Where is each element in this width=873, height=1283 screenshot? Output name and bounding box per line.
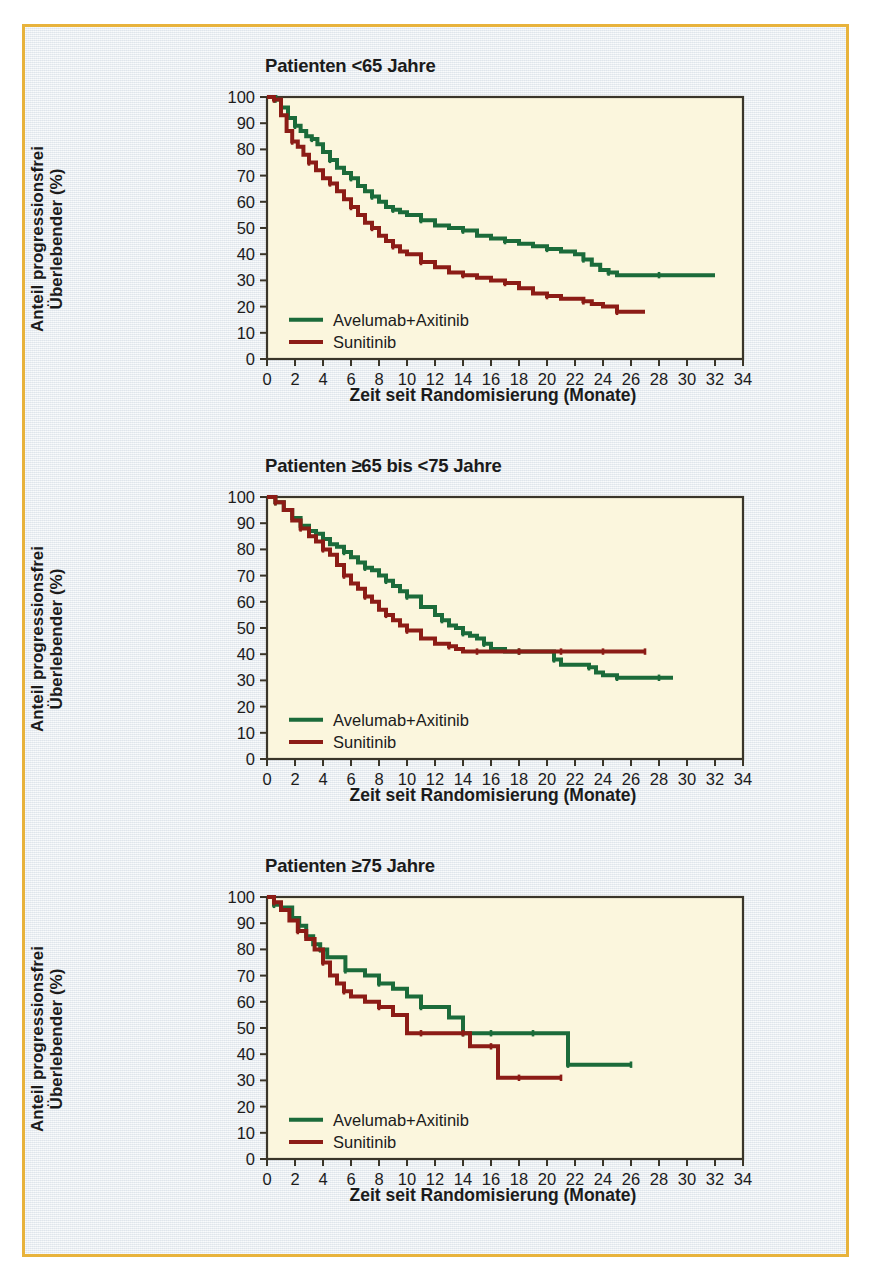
kaplan-meier-plot: 0102030405060708090100024681012141618202…: [25, 427, 852, 838]
svg-text:40: 40: [237, 245, 255, 263]
svg-text:Avelumab+Axitinib: Avelumab+Axitinib: [333, 1111, 469, 1129]
svg-text:80: 80: [237, 140, 255, 158]
svg-text:20: 20: [237, 298, 255, 316]
svg-text:70: 70: [237, 967, 255, 985]
svg-text:0: 0: [246, 1150, 255, 1168]
x-axis-label: Zeit seit Randomisierung (Monate): [193, 785, 793, 806]
kaplan-meier-plot: 0102030405060708090100024681012141618202…: [25, 827, 852, 1238]
svg-text:Sunitinib: Sunitinib: [333, 1133, 396, 1151]
svg-text:50: 50: [237, 619, 255, 637]
figure-frame: Patienten <65 Jahre Anteil progressionsf…: [22, 24, 849, 1257]
svg-text:10: 10: [237, 724, 255, 742]
svg-text:100: 100: [227, 888, 255, 906]
svg-text:60: 60: [237, 993, 255, 1011]
svg-text:100: 100: [227, 488, 255, 506]
svg-text:20: 20: [237, 698, 255, 716]
figure-background: Patienten <65 Jahre Anteil progressionsf…: [25, 27, 846, 1254]
svg-text:Sunitinib: Sunitinib: [333, 333, 396, 351]
kaplan-meier-plot: 0102030405060708090100024681012141618202…: [25, 27, 852, 438]
svg-text:90: 90: [237, 114, 255, 132]
svg-text:100: 100: [227, 88, 255, 106]
x-axis-label: Zeit seit Randomisierung (Monate): [193, 1185, 793, 1206]
svg-text:10: 10: [237, 324, 255, 342]
svg-text:90: 90: [237, 914, 255, 932]
svg-text:10: 10: [237, 1124, 255, 1142]
chart-panel-65-to-75: Patienten ≥65 bis <75 Jahre Anteil progr…: [25, 427, 852, 838]
svg-text:Avelumab+Axitinib: Avelumab+Axitinib: [333, 711, 469, 729]
svg-text:Avelumab+Axitinib: Avelumab+Axitinib: [333, 311, 469, 329]
svg-text:20: 20: [237, 1098, 255, 1116]
svg-text:30: 30: [237, 271, 255, 289]
chart-panel-over-75: Patienten ≥75 Jahre Anteil progressionsf…: [25, 827, 852, 1238]
svg-text:40: 40: [237, 645, 255, 663]
svg-text:0: 0: [246, 750, 255, 768]
svg-text:80: 80: [237, 940, 255, 958]
svg-text:80: 80: [237, 540, 255, 558]
svg-text:60: 60: [237, 593, 255, 611]
svg-text:70: 70: [237, 567, 255, 585]
svg-text:Sunitinib: Sunitinib: [333, 733, 396, 751]
svg-text:50: 50: [237, 1019, 255, 1037]
svg-text:90: 90: [237, 514, 255, 532]
chart-panel-under-65: Patienten <65 Jahre Anteil progressionsf…: [25, 27, 852, 438]
svg-text:60: 60: [237, 193, 255, 211]
x-axis-label: Zeit seit Randomisierung (Monate): [193, 385, 793, 406]
svg-text:70: 70: [237, 167, 255, 185]
svg-text:0: 0: [246, 350, 255, 368]
svg-text:40: 40: [237, 1045, 255, 1063]
svg-text:50: 50: [237, 219, 255, 237]
svg-text:30: 30: [237, 1071, 255, 1089]
svg-text:30: 30: [237, 671, 255, 689]
